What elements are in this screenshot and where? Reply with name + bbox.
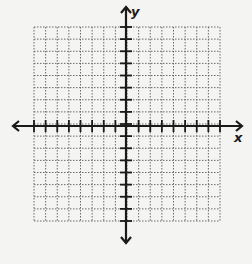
x-axis-label: x [233,130,243,145]
coordinate-plane: x y [0,0,252,264]
y-axis-label: y [131,4,140,19]
